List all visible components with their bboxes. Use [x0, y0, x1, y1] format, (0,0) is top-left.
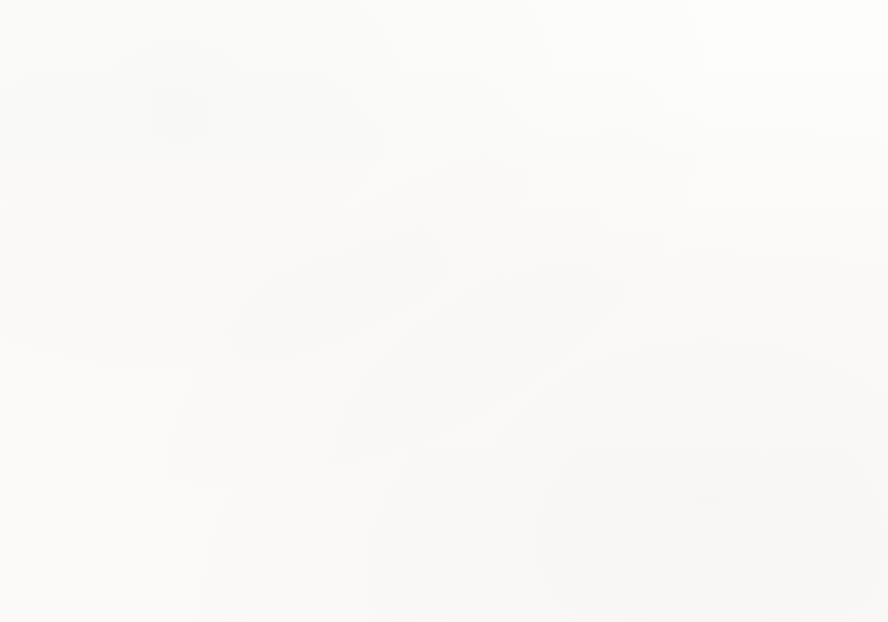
panel-b-ytick-bottom: 90°: [36, 526, 60, 545]
panel-b-plot-frame: [66, 272, 428, 536]
panel-c-ytick-minus-label: −: [493, 438, 504, 459]
panel-c-ytick-zero-label: 0: [495, 370, 504, 390]
panel-c-plot-frame: [512, 270, 872, 534]
drop-1-group: θ: [140, 51, 299, 186]
panel-c-stable-label: stable: [632, 508, 672, 527]
panel-c-metastable-label: metastable: [790, 507, 863, 526]
panel-c-tau-c-symbol: τ: [694, 293, 702, 314]
panel-c-ylabel: free energy, G: [457, 354, 476, 450]
panel-c-tau-c-label: τ c: [694, 293, 711, 319]
panel-c-caption: (c): [691, 584, 710, 603]
drop-3-group: θ: [558, 35, 722, 189]
bleed-line-1: ΔΕРОРОЖНІЕ НАНОДРОРС: [186, 25, 470, 49]
panel-c-ytick-plus-label: +: [493, 300, 504, 321]
drop-1-theta-label: θ: [171, 150, 179, 167]
figure-root: ΔΕРОРОЖНІЕ НАНОДРОРС НАНОДРС θ: [0, 0, 888, 622]
panel-c: + 0 − free energy, G unstable metastable…: [457, 270, 872, 603]
panel-b-curve-unstable: [66, 273, 346, 383]
panel-b-tau-max-subscript: max: [343, 467, 365, 482]
drop-2-theta-label: θ: [377, 149, 385, 166]
panel-c-curve-unstable: [516, 299, 827, 377]
panel-c-tau-max-subscript: max: [825, 288, 847, 303]
panel-b-tau-c-subscript: c: [248, 435, 253, 449]
panel-b-tau-c-label: τ c: [236, 423, 253, 449]
panel-c-curve-stable: [535, 379, 705, 504]
panel-c-metastable-arrow: [734, 387, 772, 428]
panel-c-unstable-label: unstable: [568, 302, 625, 321]
panel-b-metastable-label: metastable: [261, 485, 334, 504]
panel-c-tau-max-symbol: τ: [812, 276, 820, 297]
drop-3-theta-label: θ: [591, 147, 599, 164]
panel-c-tau-max-label: τ max: [812, 276, 847, 303]
panel-b-ylabel: contact angle, θ: [11, 351, 30, 458]
panel-b-xlabel: line tension, τ: [200, 554, 294, 573]
panel-a-caption: (a): [435, 221, 454, 240]
panel-c-xlabel: line tension, τ: [653, 552, 747, 571]
panel-c-curve-metastable: [705, 299, 827, 379]
panel-b-stable-label: stable: [106, 474, 146, 493]
panel-b-tau-max-symbol: τ: [330, 455, 338, 476]
panel-b-tau-max-label: τ max: [330, 455, 365, 482]
drop-1-angle-arc: [140, 132, 200, 185]
panel-c-tau-c-subscript: c: [706, 305, 711, 319]
panel-b-caption: (b): [237, 585, 257, 604]
panel-a: ΔΕРОРОЖНІЕ НАНОДРОРС НАНОДРС θ: [92, 25, 812, 240]
panel-b-tau-c-symbol: τ: [236, 423, 244, 444]
panel-c-stable-arrow: [592, 474, 625, 505]
panel-b-ytick-top: 180°: [28, 265, 60, 284]
panel-b-unstable-label: unstable: [126, 298, 183, 317]
panel-b: 180° 90° contact angle, θ unstable stabl…: [11, 265, 428, 604]
figure-canvas: ΔΕРОРОЖНІЕ НАНОДРОРС НАНОДРС θ: [0, 0, 888, 622]
